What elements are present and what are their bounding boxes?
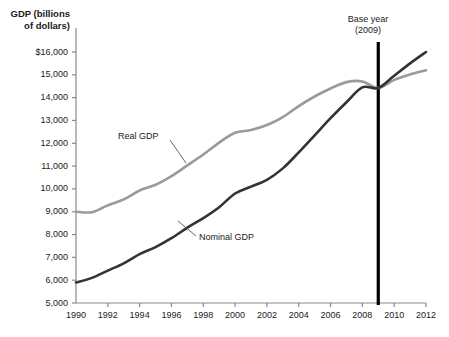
y-tick-label: $16,000	[14, 48, 68, 57]
series-label-real-gdp: Real GDP	[118, 131, 159, 141]
y-tick-label: 9,000	[14, 207, 68, 216]
y-tick-label: 13,000	[14, 116, 68, 125]
series-label-nominal-gdp: Nominal GDP	[199, 232, 254, 242]
y-tick-label: 12,000	[14, 139, 68, 148]
gdp-line-chart: GDP (billions of dollars) $16,00015,0001…	[0, 0, 449, 337]
series-line-real-gdp	[76, 70, 426, 212]
y-axis-title: GDP (billions of dollars)	[2, 8, 70, 31]
y-tick-label: 8,000	[14, 230, 68, 239]
y-tick-label: 10,000	[14, 184, 68, 193]
leader-line-real-gdp	[170, 140, 186, 163]
y-tick-label: 6,000	[14, 276, 68, 285]
annotation-base-year: Base year (2009)	[322, 14, 414, 36]
y-tick-label: 5,000	[14, 299, 68, 308]
y-tick-label: 14,000	[14, 93, 68, 102]
x-tick-label: 2012	[406, 311, 446, 320]
y-tick-label: 7,000	[14, 253, 68, 262]
y-tick-label: 11,000	[14, 162, 68, 171]
y-tick-label: 15,000	[14, 70, 68, 79]
